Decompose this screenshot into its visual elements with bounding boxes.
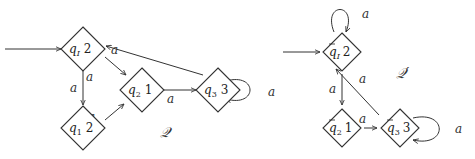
edge-label: a [268, 85, 275, 99]
edge-label: a [329, 82, 336, 96]
graph-title-q: 𝒬 [160, 124, 172, 140]
edge-label: a [455, 122, 462, 136]
node-q1: q12 [61, 106, 105, 150]
node-p2: q21 [323, 109, 361, 147]
node-p3: q33 [381, 109, 419, 147]
edge-label: a [111, 43, 118, 57]
edge-q1-q2 [105, 104, 124, 120]
edge-label: a [167, 92, 174, 106]
edge-label: a [359, 72, 366, 86]
diagram-canvas: a a a a a a qI2 q12 q21 q33 𝒬 a [0, 0, 475, 159]
node-pI: qI2 [323, 33, 361, 71]
graph-title-q-prime: 𝒬′ [396, 65, 410, 81]
graph-q: a a a a a a qI2 q12 q21 q33 𝒬 [5, 27, 275, 150]
edge-label: a [86, 70, 93, 84]
edge-pI-loop [332, 10, 349, 33]
edge-label: a [362, 7, 369, 21]
edge-label: a [70, 81, 77, 95]
edge-label: a [359, 112, 366, 126]
node-q2: q21 [120, 68, 164, 112]
edge-qI-q2 [105, 57, 126, 75]
graph-q-prime: a a a a a qI2 q21 q33 𝒬′ [283, 7, 462, 147]
node-qI: qI2 [61, 27, 105, 71]
